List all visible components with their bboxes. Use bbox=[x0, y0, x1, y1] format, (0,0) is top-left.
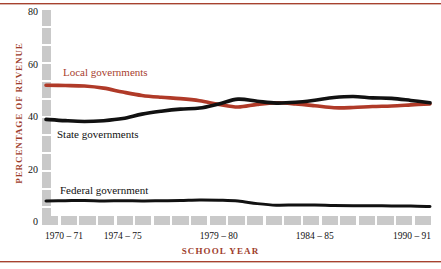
x-tick-label: 1979 – 80 bbox=[200, 231, 238, 241]
series-label-local: Local governments bbox=[63, 66, 148, 78]
chart-figure: PERCENTAGE OF REVENUE SCHOOL YEAR 020406… bbox=[0, 0, 441, 269]
bottom-rule-shadow bbox=[0, 262, 441, 263]
x-tick-label: 1974 – 75 bbox=[104, 231, 142, 241]
series-line-federal-government bbox=[46, 200, 430, 207]
series-line-state-governments bbox=[46, 97, 430, 122]
x-tick-label: 1984 – 85 bbox=[296, 231, 334, 241]
x-tick-label: 1970 – 71 bbox=[45, 231, 83, 241]
series-label-federal: Federal government bbox=[60, 184, 148, 196]
x-tick-label: 1990 – 91 bbox=[393, 231, 431, 241]
series-label-state: State governments bbox=[57, 128, 139, 140]
